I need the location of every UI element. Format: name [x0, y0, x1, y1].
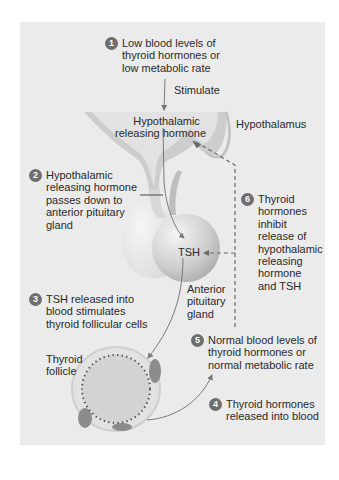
step-3: 3 TSH released into blood stimulates thy… [29, 293, 147, 330]
stimulate-label: Stimulate [174, 84, 220, 96]
step-badge: 3 [29, 293, 42, 306]
step-6-text: Thyroid hormones inhibit release of hypo… [258, 193, 323, 292]
anterior-pituitary-label: Anterior pituitary gland [187, 283, 226, 320]
step-4-text: Thyroid hormones released into blood [226, 398, 319, 423]
step-badge: 1 [105, 37, 118, 50]
step-badge: 2 [29, 169, 42, 182]
step-1: 1 Low blood levels of thyroid hormones o… [105, 37, 220, 74]
step-3-text: TSH released into blood stimulates thyro… [46, 293, 147, 330]
step-1-text: Low blood levels of thyroid hormones or … [122, 37, 220, 74]
step-4: 4 Thyroid hormones released into blood [209, 398, 319, 423]
thyroid-follicle-label: Thyroid follicle [46, 353, 83, 378]
step-5-text: Normal blood levels of thyroid hormones … [208, 334, 317, 371]
step-badge: 6 [241, 193, 254, 206]
portal-vessel [169, 170, 182, 215]
tsh-label: TSH [178, 246, 200, 258]
step-6: 6 Thyroid hormones inhibit release of hy… [241, 193, 323, 292]
step-2-text: Hypothalamic releasing hormone passes do… [46, 169, 137, 231]
hypothalamic-releasing-hormone-label: Hypothalamic releasing hormone [115, 115, 206, 140]
thyroid-follicle-shape [72, 347, 161, 431]
step-2: 2 Hypothalamic releasing hormone passes … [29, 169, 137, 231]
step-badge: 5 [191, 334, 204, 347]
step-badge: 4 [209, 398, 222, 411]
hypothalamus-label: Hypothalamus [236, 118, 306, 130]
step-5: 5 Normal blood levels of thyroid hormone… [191, 334, 317, 371]
stimulate-arrow [164, 79, 165, 110]
